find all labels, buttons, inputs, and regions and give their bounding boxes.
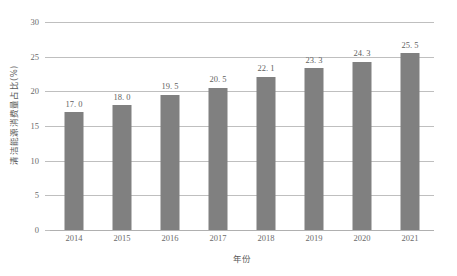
bar-value-label: 24. 3 (354, 49, 371, 58)
y-axis-tick-label: 5 (22, 191, 44, 200)
bar[interactable] (113, 105, 132, 230)
bars: 17. 018. 019. 520. 522. 123. 324. 325. 5 (50, 22, 434, 230)
bar-chart: 清洁能源消费量占比(%) 051015202530 17. 018. 019. … (0, 0, 457, 276)
x-axis-tick-label: 2017 (210, 234, 227, 243)
bar[interactable] (353, 62, 372, 230)
bar-group[interactable]: 25. 5 (386, 22, 434, 230)
gridline (50, 230, 434, 231)
bar-value-label: 20. 5 (210, 75, 227, 84)
x-axis-tick-label: 2015 (114, 234, 131, 243)
x-axis-tick-label: 2021 (402, 234, 419, 243)
bar-group[interactable]: 18. 0 (98, 22, 146, 230)
plot-area: 17. 018. 019. 520. 522. 123. 324. 325. 5 (50, 22, 434, 230)
bar-value-label: 23. 3 (306, 56, 323, 65)
bar-group[interactable]: 23. 3 (290, 22, 338, 230)
x-axis-tick-label: 2018 (258, 234, 275, 243)
bar[interactable] (257, 77, 276, 230)
bar-group[interactable]: 24. 3 (338, 22, 386, 230)
y-axis-tick-label: 10 (22, 156, 44, 165)
bar-value-label: 19. 5 (162, 82, 179, 91)
y-axis-tick-label: 20 (22, 87, 44, 96)
bar-group[interactable]: 22. 1 (242, 22, 290, 230)
bar-value-label: 18. 0 (114, 93, 131, 102)
y-axis-tick-label: 15 (22, 122, 44, 131)
bar[interactable] (161, 95, 180, 230)
x-axis-tick-labels: 20142015201620172018201920202021 (50, 234, 434, 250)
bar[interactable] (209, 88, 228, 230)
bar-group[interactable]: 17. 0 (50, 22, 98, 230)
y-axis-tick-label: 0 (22, 226, 44, 235)
y-axis-tick-mark (45, 230, 50, 231)
bar-value-label: 22. 1 (258, 64, 275, 73)
x-axis-tick-label: 2020 (354, 234, 371, 243)
y-axis-tick-labels: 051015202530 (22, 0, 44, 276)
bar[interactable] (65, 112, 84, 230)
bar[interactable] (401, 53, 420, 230)
bar-value-label: 25. 5 (402, 41, 419, 50)
y-axis-tick-label: 30 (22, 18, 44, 27)
x-axis-tick-label: 2019 (306, 234, 323, 243)
bar-group[interactable]: 19. 5 (146, 22, 194, 230)
bar-value-label: 17. 0 (66, 100, 83, 109)
y-axis-title-text: 清洁能源消费量占比(%) (7, 65, 19, 164)
x-axis-tick-label: 2014 (66, 234, 83, 243)
bar-group[interactable]: 20. 5 (194, 22, 242, 230)
x-axis-title: 年份 (50, 252, 434, 264)
y-axis-tick-label: 25 (22, 52, 44, 61)
x-axis-tick-label: 2016 (162, 234, 179, 243)
bar[interactable] (305, 68, 324, 230)
